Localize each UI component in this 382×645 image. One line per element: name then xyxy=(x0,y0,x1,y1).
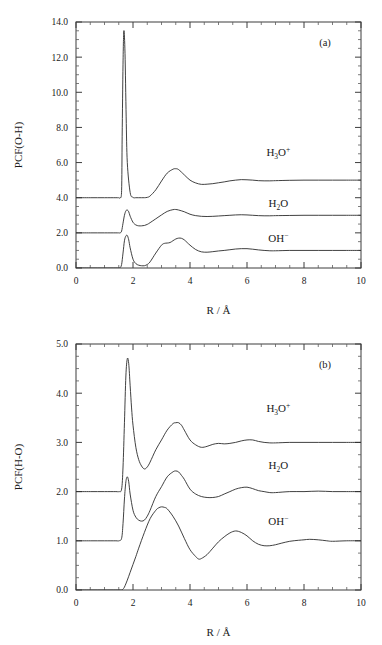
x-tick-label: 4 xyxy=(188,598,193,608)
y-tick-label: 3.0 xyxy=(56,438,68,448)
curve-OHminus xyxy=(76,235,361,268)
x-tick-label: 8 xyxy=(302,276,307,286)
curve-H3Oplus xyxy=(76,31,361,199)
series-labels: H3O+H2OOH− xyxy=(266,401,290,527)
x-tick-label: 0 xyxy=(74,598,79,608)
plot-svg-b: 02468100.01.02.03.04.05.0R / ÅPCF(H-O)(b… xyxy=(0,322,382,644)
series-label-OHminus: OH− xyxy=(268,514,288,527)
curve-OHminus xyxy=(76,507,361,590)
x-tick-label: 6 xyxy=(245,598,250,608)
y-tick-label: 6.0 xyxy=(56,158,68,168)
x-tick-label: 10 xyxy=(356,598,366,608)
plot-svg-a: 02468100.02.04.06.08.010.012.014.0R / ÅP… xyxy=(0,0,382,322)
y-tick-label: 2.0 xyxy=(56,228,68,238)
curve-H2O xyxy=(76,471,361,541)
y-tick-label: 2.0 xyxy=(56,487,68,497)
y-tick-label: 1.0 xyxy=(56,536,68,546)
y-tick-label: 4.0 xyxy=(56,193,68,203)
y-axis-title: PCF(O-H) xyxy=(12,121,25,168)
x-tick-label: 8 xyxy=(302,598,307,608)
curves-group xyxy=(76,358,361,590)
axis-ticks xyxy=(76,344,361,590)
curve-H3Oplus xyxy=(76,358,361,492)
series-label-OHminus: OH− xyxy=(268,231,288,244)
y-tick-label: 0.0 xyxy=(56,585,68,595)
panel-label: (a) xyxy=(319,37,331,49)
y-tick-label: 8.0 xyxy=(56,123,68,133)
plot-frame xyxy=(76,22,361,268)
y-tick-label: 5.0 xyxy=(56,339,68,349)
series-label-H2O: H2O xyxy=(269,197,289,212)
y-tick-label: 10.0 xyxy=(51,88,68,98)
plot-frame xyxy=(76,344,361,590)
series-label-H3Oplus: H3O+ xyxy=(266,401,290,417)
chart-panel-a: 02468100.02.04.06.08.010.012.014.0R / ÅP… xyxy=(0,0,382,322)
y-tick-label: 14.0 xyxy=(51,17,68,27)
curve-H2O xyxy=(76,209,361,233)
y-axis-title: PCF(H-O) xyxy=(12,443,25,490)
y-tick-label: 4.0 xyxy=(56,389,68,399)
x-tick-label: 10 xyxy=(356,276,366,286)
series-label-H3Oplus: H3O+ xyxy=(266,145,290,161)
panel-label: (b) xyxy=(319,359,332,371)
y-tick-label: 0.0 xyxy=(56,263,68,273)
series-labels: H3O+H2OOH− xyxy=(266,145,290,243)
x-tick-label: 2 xyxy=(131,598,136,608)
series-label-H2O: H2O xyxy=(269,459,289,474)
x-tick-label: 4 xyxy=(188,276,193,286)
y-tick-label: 12.0 xyxy=(51,53,68,63)
chart-panel-b: 02468100.01.02.03.04.05.0R / ÅPCF(H-O)(b… xyxy=(0,322,382,644)
x-axis-title: R / Å xyxy=(207,626,231,638)
x-tick-label: 6 xyxy=(245,276,250,286)
x-axis-title: R / Å xyxy=(207,304,231,316)
figure-container: 02468100.02.04.06.08.010.012.014.0R / ÅP… xyxy=(0,0,382,645)
x-tick-label: 2 xyxy=(131,276,136,286)
x-tick-label: 0 xyxy=(74,276,79,286)
curves-group xyxy=(76,31,361,268)
axis-ticks xyxy=(76,22,361,268)
